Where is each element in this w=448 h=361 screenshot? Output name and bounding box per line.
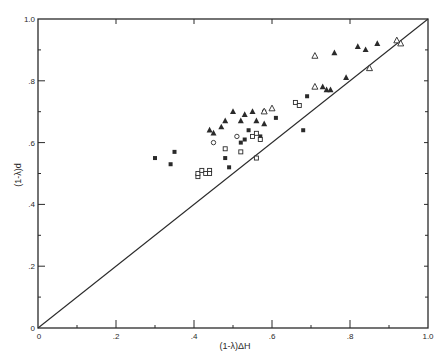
x-tick-label: .6 <box>269 332 276 341</box>
filled-triangle-marker <box>242 111 248 117</box>
filled-square-marker <box>223 156 227 160</box>
filled-triangle-marker <box>320 83 326 89</box>
open-circle-marker <box>235 134 239 138</box>
open-square-marker <box>223 147 227 151</box>
x-axis: 0.2.4.6.81.0 <box>37 19 434 341</box>
filled-triangle-marker <box>207 127 213 133</box>
y-tick-label: 1.0 <box>24 15 36 24</box>
filled-square-marker <box>247 128 251 132</box>
open-triangle-marker <box>394 37 400 43</box>
filled-triangle-marker <box>374 40 380 46</box>
x-tick-label: 0 <box>37 332 42 341</box>
y-axis-label: (1-λ)d <box>13 163 23 187</box>
y-tick-label: .4 <box>28 200 35 209</box>
filled-square-marker <box>169 162 173 166</box>
filled-triangle-marker <box>218 124 224 130</box>
open-triangle-marker <box>261 108 267 114</box>
open-triangle-marker <box>269 105 275 111</box>
open-square-marker <box>200 168 204 172</box>
open-square-marker <box>196 172 200 176</box>
filled-square-marker <box>239 141 243 145</box>
y-tick-label: .8 <box>28 77 35 86</box>
open-square-marker <box>293 100 297 104</box>
x-tick-label: .8 <box>347 332 354 341</box>
open-circle-marker <box>211 140 215 144</box>
open-triangle-marker <box>367 65 373 71</box>
filled-triangle-marker <box>230 108 236 114</box>
y-tick-label: .6 <box>28 139 35 148</box>
open-square-marker <box>204 172 208 176</box>
data-points <box>153 37 404 178</box>
open-square-marker <box>208 172 212 176</box>
open-triangle-marker <box>312 53 318 59</box>
filled-triangle-marker <box>250 108 256 114</box>
y-axis: 0.2.4.6.81.0 <box>24 15 428 333</box>
y-tick-label: 0 <box>31 324 36 333</box>
open-square-marker <box>254 156 258 160</box>
x-tick-label: 1.0 <box>422 332 434 341</box>
filled-triangle-marker <box>261 121 267 127</box>
filled-triangle-marker <box>363 46 369 52</box>
filled-triangle-marker <box>343 74 349 80</box>
filled-square-marker <box>243 138 247 142</box>
open-square-marker <box>251 134 255 138</box>
filled-triangle-marker <box>222 117 228 123</box>
x-axis-label: (1-λ)ΔH <box>219 341 250 351</box>
filled-square-marker <box>173 150 177 154</box>
filled-triangle-marker <box>355 43 361 49</box>
filled-triangle-marker <box>328 87 334 93</box>
filled-triangle-marker <box>238 117 244 123</box>
filled-triangle-marker <box>331 49 337 55</box>
x-tick-label: .4 <box>191 332 198 341</box>
filled-square-marker <box>305 94 309 98</box>
open-square-marker <box>297 104 301 108</box>
filled-square-marker <box>153 156 157 160</box>
y-tick-label: .2 <box>28 262 35 271</box>
open-square-marker <box>258 138 262 142</box>
filled-square-marker <box>227 165 231 169</box>
filled-triangle-marker <box>253 117 259 123</box>
open-square-marker <box>239 150 243 154</box>
open-triangle-marker <box>312 83 318 89</box>
filled-square-marker <box>301 128 305 132</box>
filled-square-marker <box>274 116 278 120</box>
x-tick-label: .2 <box>113 332 120 341</box>
scatter-chart: 0.2.4.6.81.0 0.2.4.6.81.0 (1-λ)ΔH (1-λ)d <box>0 0 448 361</box>
open-square-marker <box>254 131 258 135</box>
